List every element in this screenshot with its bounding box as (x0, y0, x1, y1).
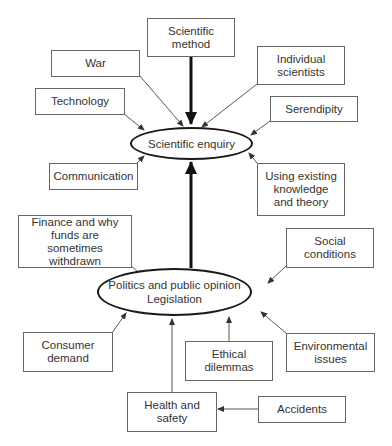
node-serendipity: Serendipity (270, 96, 358, 122)
node-environmental-issues: Environmental issues (286, 333, 375, 372)
node-label-line2: Legislation (147, 292, 202, 306)
node-existing-knowledge: Using existing knowledge and theory (257, 163, 345, 216)
node-label: Environmental issues (291, 340, 371, 366)
arrow-social-conditions (268, 266, 286, 283)
node-scientific-method: Scientific method (147, 18, 235, 57)
node-label: War (85, 57, 106, 70)
node-label: Social conditions (300, 235, 360, 261)
node-consumer-demand: Consumer demand (23, 332, 113, 372)
node-finance: Finance and why funds are sometimes with… (18, 215, 132, 268)
node-ethical-dilemmas: Ethical dilemmas (185, 341, 273, 381)
arrow-serendipity (251, 121, 270, 135)
node-label-line1: Politics and public opinion (108, 278, 240, 292)
node-label: Technology (51, 95, 109, 108)
node-war: War (51, 50, 140, 77)
node-technology: Technology (35, 88, 125, 115)
arrow-existing-knowledge (249, 153, 257, 163)
node-label: Using existing knowledge and theory (263, 170, 339, 209)
arrow-environmental-issues (261, 312, 286, 333)
node-accidents: Accidents (258, 396, 346, 423)
node-individual-scientists: Individual scientists (257, 46, 345, 85)
node-label: Consumer demand (38, 339, 98, 365)
node-label: Individual scientists (270, 53, 332, 79)
node-label: Scientific enquiry (148, 137, 235, 151)
node-politics-legislation: Politics and public opinion Legislation (97, 268, 252, 316)
node-scientific-enquiry: Scientific enquiry (130, 127, 253, 160)
node-health-safety: Health and safety (127, 392, 217, 432)
arrow-communication (137, 156, 144, 163)
node-label: Serendipity (285, 103, 343, 116)
node-label: Health and safety (137, 399, 207, 425)
node-label: Ethical dilemmas (200, 348, 258, 374)
arrow-individual-scientists (202, 84, 257, 127)
node-label: Finance and why funds are sometimes with… (23, 216, 127, 268)
arrow-technology (124, 114, 144, 130)
arrow-consumer-demand (112, 313, 126, 333)
node-social-conditions: Social conditions (286, 228, 374, 268)
node-communication: Communication (49, 163, 138, 190)
node-label: Scientific method (161, 25, 221, 51)
node-label: Communication (54, 170, 134, 183)
node-label: Accidents (277, 403, 327, 416)
arrow-war (139, 75, 183, 126)
